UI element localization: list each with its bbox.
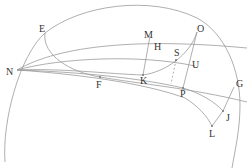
point-J — [222, 110, 224, 112]
label-G: G — [236, 78, 243, 89]
label-F: F — [96, 79, 102, 90]
label-H: H — [154, 41, 161, 52]
point-L — [211, 125, 213, 127]
arc-N-top — [17, 44, 247, 70]
point-S — [175, 59, 177, 61]
label-K: K — [140, 75, 148, 86]
label-P: P — [180, 88, 186, 99]
label-U: U — [192, 59, 200, 70]
point-F — [99, 76, 101, 78]
line-M-K — [143, 36, 150, 75]
label-N: N — [6, 66, 13, 77]
label-M: M — [144, 29, 153, 40]
line-J-L — [212, 111, 223, 126]
arc-N-K-O — [17, 32, 197, 75]
arc-N-P-J — [17, 70, 223, 111]
geometry-diagram: E N F O M H K S U P G J L — [0, 0, 247, 168]
label-E: E — [39, 23, 45, 34]
label-L: L — [209, 128, 215, 139]
arc-N-U — [17, 59, 195, 70]
label-S: S — [174, 47, 180, 58]
label-J: J — [226, 112, 230, 123]
label-O: O — [197, 23, 204, 34]
